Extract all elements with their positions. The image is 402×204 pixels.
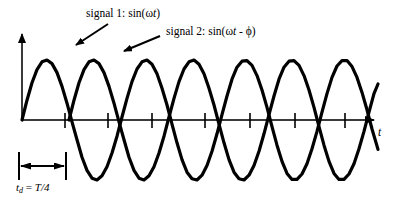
x-axis-label: t (378, 127, 381, 139)
delay-label: td = T/4 (16, 182, 49, 195)
delay-dimension (19, 152, 66, 180)
signal-2-minus: - (236, 25, 246, 37)
signal-1-omega: ω (145, 7, 153, 19)
signal-1-leader-arrow (76, 24, 108, 45)
signal-1-prefix: signal 1: sin( (86, 7, 145, 19)
signal-1-suffix: ) (156, 7, 160, 19)
signal-2-label: signal 2: sin(ωt - ϕ) (166, 26, 256, 38)
signal-2-leader-arrow (124, 36, 160, 51)
signal-2-suffix: ) (252, 25, 256, 37)
waveform-figure: signal 1: sin(ωt) signal 2: sin(ωt - ϕ) … (0, 0, 402, 204)
signal-2-prefix: signal 2: sin( (166, 25, 225, 37)
delay-value: T/4 (35, 181, 50, 193)
signal-1-label: signal 1: sin(ωt) (86, 8, 160, 20)
delay-equals: = (23, 181, 35, 193)
signal-2-omega: ω (225, 25, 233, 37)
